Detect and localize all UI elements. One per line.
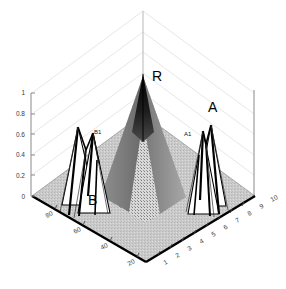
peak-label-B1: B1 xyxy=(94,129,102,135)
plot-canvas: 1 0.8 0.6 0.4 0.2 0 80 60 40 20 xyxy=(0,0,286,289)
z-tick-2: 0.6 xyxy=(16,131,25,138)
y-tick-0: 80 xyxy=(44,209,54,219)
y-tick-3: 20 xyxy=(126,257,136,267)
peak-label-B: B xyxy=(88,192,97,208)
x-tick-7: 8 xyxy=(246,209,253,217)
peak-label-R: R xyxy=(152,68,162,84)
x-tick-5: 6 xyxy=(222,223,229,231)
x-tick-3: 4 xyxy=(198,237,205,245)
y-tick-1: 60 xyxy=(72,225,82,235)
x-tick-8: 9 xyxy=(258,202,265,210)
z-axis: 1 0.8 0.6 0.4 0.2 0 xyxy=(16,89,35,200)
x-tick-0: 1 xyxy=(162,258,169,266)
x-tick-4: 5 xyxy=(210,230,217,238)
y-tick-2: 40 xyxy=(99,241,109,251)
z-tick-1: 0.8 xyxy=(16,110,25,117)
z-tick-4: 0.2 xyxy=(16,172,25,179)
z-tick-5: 0 xyxy=(21,193,25,200)
z-tick-0: 1 xyxy=(21,89,25,96)
x-tick-6: 7 xyxy=(234,216,241,224)
peak-label-A1: A1 xyxy=(184,131,192,137)
peak-label-A: A xyxy=(208,99,218,115)
x-tick-2: 3 xyxy=(186,244,193,252)
x-tick-1: 2 xyxy=(174,251,181,259)
x-tick-9: 10 xyxy=(269,193,279,203)
z-tick-3: 0.4 xyxy=(16,151,25,158)
surface-plot-figure: 1 0.8 0.6 0.4 0.2 0 80 60 40 20 xyxy=(0,0,286,289)
